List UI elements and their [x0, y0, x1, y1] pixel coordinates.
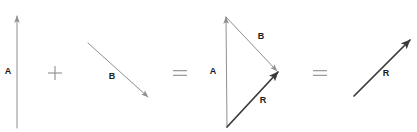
- vector-arrow-b-standalone: [88, 43, 148, 97]
- vector-labels-layer: ABABRR: [5, 31, 390, 105]
- vector-label-b-standalone: B: [109, 71, 116, 81]
- vector-group-triangle: [226, 17, 278, 127]
- vector-label-r-standalone: R: [383, 68, 390, 78]
- vector-label-a-standalone: A: [5, 66, 12, 76]
- vector-label-a-triangle: A: [210, 66, 217, 76]
- operator-plus-icon: [48, 66, 62, 80]
- operator-equals-1-icon: [173, 71, 187, 76]
- operator-equals-2-icon: [313, 71, 327, 76]
- vector-label-r-triangle: R: [260, 95, 267, 105]
- vector-addition-figure: ABABRR: [0, 0, 417, 132]
- operators-layer: [48, 66, 327, 80]
- vector-arrow-b-triangle: [226, 17, 277, 71]
- vector-arrow-a-triangle: [226, 17, 227, 127]
- vector-arrow-r-triangle: [227, 72, 278, 127]
- vector-label-b-triangle: B: [258, 31, 265, 41]
- vector-group-term-b: [88, 43, 148, 97]
- vector-diagram-canvas: ABABRR: [0, 0, 417, 132]
